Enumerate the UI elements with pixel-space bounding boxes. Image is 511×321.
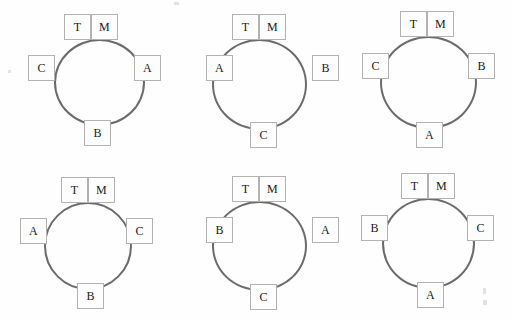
- diagram-panel-1: T M C A B: [0, 0, 170, 160]
- panel-1-circle: [54, 39, 145, 126]
- panel-3-label-bottom: A: [416, 122, 443, 148]
- panel-6-label-bottom: A: [417, 282, 444, 308]
- panel-1-label-bottom: B: [84, 120, 111, 146]
- diagram-panel-6: T M B C A: [340, 160, 510, 320]
- panel-5-label-top-right: M: [259, 176, 286, 202]
- panel-5-label-bottom: C: [250, 284, 277, 310]
- panel-3-label-left: C: [362, 53, 389, 79]
- panel-6-label-top-left: T: [401, 173, 428, 199]
- panel-2-circle: [212, 39, 307, 130]
- panel-1-label-top-right: M: [91, 14, 118, 40]
- panel-2-label-top-right: M: [259, 14, 286, 40]
- diagram-panel-2: T M A B C: [170, 0, 340, 160]
- panel-2-label-right: B: [312, 55, 339, 81]
- panel-3-label-right: B: [468, 53, 495, 79]
- panel-3-label-top-left: T: [400, 11, 427, 37]
- panel-3-label-top-right: M: [427, 11, 454, 37]
- panel-2-label-top-left: T: [232, 14, 259, 40]
- panel-5-label-top-left: T: [232, 176, 259, 202]
- panel-4-label-top-right: M: [88, 177, 115, 203]
- panel-6-label-left: B: [361, 215, 388, 241]
- diagram-panel-4: T M A C B: [0, 160, 170, 320]
- diagram-panel-5: T M B A C: [170, 160, 340, 320]
- diagram-panel-3: T M C B A: [340, 0, 510, 160]
- panel-6-label-right: C: [467, 215, 494, 241]
- panel-4-circle: [44, 202, 132, 290]
- panel-3-circle: [380, 36, 477, 129]
- panel-5-label-left: B: [206, 217, 233, 243]
- panel-4-label-right: C: [126, 218, 153, 244]
- panel-6-circle: [382, 198, 475, 289]
- panel-4-label-bottom: B: [77, 283, 104, 309]
- panel-1-label-right: A: [134, 55, 161, 81]
- panel-6-label-top-right: M: [428, 173, 455, 199]
- panel-4-label-left: A: [20, 218, 47, 244]
- panel-1-label-left: C: [28, 55, 55, 81]
- panel-2-label-bottom: C: [250, 122, 277, 148]
- panel-5-label-right: A: [312, 217, 339, 243]
- panel-5-circle: [212, 201, 307, 291]
- panel-1-label-top-left: T: [64, 14, 91, 40]
- diagram-canvas: T M C A B T M A B C T M C B A T M A C B …: [0, 0, 511, 321]
- panel-4-label-top-left: T: [61, 177, 88, 203]
- panel-2-label-left: A: [206, 55, 233, 81]
